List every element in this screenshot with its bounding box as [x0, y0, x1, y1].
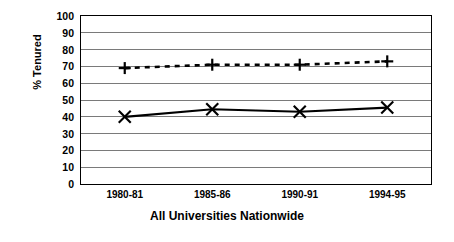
- marker-plus-1980-81: [119, 62, 131, 74]
- marker-plus-1985-86: [206, 59, 218, 71]
- y-tick-20: 20: [62, 145, 74, 155]
- x-tick-1990-91: 1990-91: [265, 189, 335, 200]
- y-tick-40: 40: [62, 112, 74, 122]
- x-tick-1985-86: 1985-86: [177, 189, 247, 200]
- x-tick-1980-81: 1980-81: [90, 189, 160, 200]
- x-axis-title: All Universities Nationwide: [0, 209, 454, 223]
- marker-plus-1990-91: [294, 59, 306, 71]
- x-tick-1994-95: 1994-95: [352, 189, 422, 200]
- y-tick-0: 0: [68, 179, 74, 189]
- y-tick-50: 50: [62, 95, 74, 105]
- y-tick-90: 90: [62, 28, 74, 38]
- y-axis-tick-labels: 1009080706050403020100: [40, 0, 74, 242]
- series-line-series-solid-cross: [125, 108, 388, 117]
- plot-svg: [81, 16, 431, 184]
- y-tick-80: 80: [62, 45, 74, 55]
- y-tick-70: 70: [62, 61, 74, 71]
- y-tick-60: 60: [62, 78, 74, 88]
- y-tick-30: 30: [62, 129, 74, 139]
- y-tick-10: 10: [62, 162, 74, 172]
- marker-plus-1994-95: [381, 55, 393, 67]
- y-tick-100: 100: [56, 11, 74, 21]
- plot-area: [80, 15, 432, 185]
- series-line-series-dashed-plus: [125, 61, 388, 68]
- chart-container: % Tenured 1009080706050403020100 1980-81…: [0, 0, 454, 242]
